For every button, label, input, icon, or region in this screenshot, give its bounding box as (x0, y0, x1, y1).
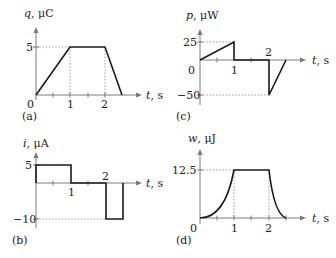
x-tick-label: 1 (68, 186, 75, 199)
panel-b: i, μA 5 −10 1 2 t, s (b) (12, 137, 163, 247)
y-tick-label: 5 (26, 41, 33, 54)
y-axis-arrow-icon (198, 149, 203, 155)
y-axis-label: p, μW (186, 9, 219, 22)
y-axis-label: qq, μC, μC (24, 7, 54, 20)
y-axis-arrow-icon (198, 29, 203, 35)
y-axis-label: i, μA (23, 137, 50, 150)
x-tick-label: 2 (101, 98, 108, 111)
x-axis-label: t, s (312, 54, 329, 67)
x-tick-label: 1 (67, 98, 74, 111)
panel-label: (c) (176, 110, 191, 123)
p-curve (200, 42, 286, 95)
y-tick-label: −50 (177, 89, 200, 102)
x-axis-label: t, s (312, 212, 329, 225)
panel-d: w, μJ 12.5 0 1 2 t, s (d) (172, 132, 329, 247)
panel-a: qq, μC, μC 5 0 1 2 t, s (a) (22, 7, 163, 123)
x-axis-label: t, s (146, 89, 163, 102)
figure-canvas: qq, μC, μC 5 0 1 2 t, s (a) i, μA 5 −10 … (0, 0, 336, 258)
x-axis-arrow-icon (300, 216, 306, 221)
y-tick-label: 5 (25, 159, 32, 172)
y-tick-label: −10 (13, 213, 36, 226)
panel-label: (b) (12, 234, 28, 247)
x-axis-arrow-icon (300, 58, 306, 63)
x-tick-label: 2 (265, 46, 272, 59)
w-curve (200, 170, 286, 218)
x-tick-label: 1 (231, 222, 238, 235)
panel-label: (a) (22, 110, 37, 123)
x-tick-label: 2 (265, 222, 272, 235)
origin-label: 0 (188, 64, 195, 77)
panel-c: p, μW 25 −50 0 1 2 t, s (c) (176, 9, 329, 123)
y-axis-arrow-icon (34, 152, 39, 158)
y-tick-label: 12.5 (172, 164, 197, 177)
x-axis-arrow-icon (136, 181, 142, 186)
y-tick-label: 25 (183, 36, 197, 49)
x-axis-arrow-icon (136, 93, 142, 98)
x-tick-label: 2 (102, 170, 109, 183)
x-axis-label: t, s (146, 177, 163, 190)
x-tick-label: 1 (231, 64, 238, 77)
y-axis-label: w, μJ (188, 132, 216, 145)
i-curve (36, 165, 123, 219)
q-curve (36, 47, 122, 95)
panel-label: (d) (176, 234, 192, 247)
y-axis-arrow-icon (34, 27, 39, 33)
